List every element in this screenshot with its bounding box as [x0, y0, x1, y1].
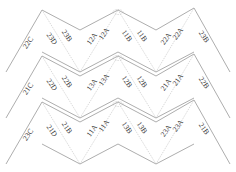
segment-label: 22B: [60, 74, 75, 89]
segment-label: 23A: [159, 122, 174, 138]
segment-label: 12B: [135, 74, 150, 89]
segment-label: 21B: [60, 120, 75, 135]
zigzag-strip-2: 21C22D22B13A13A12B12B21A21A22B: [6, 54, 230, 118]
segment-label: 23B: [197, 29, 212, 44]
zigzag-strip-1: 22C23D23B12A12A11B11B22A22A23B: [6, 8, 230, 72]
strip-labels: 21C22D22B13A13A12B12B21A21A22B: [21, 71, 212, 96]
segment-label: 13B: [135, 120, 150, 135]
strip-outline: [6, 100, 230, 164]
segment-label: 21B: [197, 121, 212, 136]
strip-labels: 22C23D23B12A12A11B11B22A22A23B: [21, 25, 212, 50]
segment-label: 21C: [21, 81, 36, 96]
segment-label: 22A: [171, 25, 186, 41]
strip-inner-edge: [42, 144, 194, 164]
strip-outline: [6, 54, 230, 118]
segment-label: 12B: [120, 74, 135, 89]
segment-label: 11B: [120, 28, 134, 43]
zigzag-strip-3: 23C21D21B11A11A13B13B23A23A21B: [6, 100, 230, 164]
segment-label: 12A: [97, 25, 112, 41]
segment-label: 13A: [97, 71, 112, 87]
segment-label: 13B: [120, 120, 135, 135]
segment-label: 22D: [45, 77, 60, 93]
segment-label: 22C: [21, 35, 36, 50]
zigzag-diagram: 22C23D23B12A12A11B11B22A22A23B 21C22D22B…: [0, 0, 236, 172]
diagram-canvas: 22C23D23B12A12A11B11B22A22A23B 21C22D22B…: [0, 0, 236, 172]
segment-label: 23C: [21, 127, 36, 142]
segment-label: 22A: [159, 30, 174, 46]
strip-inner-edge: [42, 98, 194, 118]
segment-label: 21A: [171, 71, 186, 87]
segment-label: 21A: [159, 76, 174, 92]
strip-inner-edge: [42, 52, 194, 72]
segment-label: 23B: [60, 28, 75, 43]
strip-labels: 23C21D21B11A11A13B13B23A23A21B: [21, 117, 212, 142]
segment-label: 22B: [197, 75, 212, 90]
segment-label: 23D: [45, 31, 60, 47]
segment-label: 11A: [97, 117, 112, 133]
segment-label: 21D: [45, 123, 60, 139]
strip-outline: [6, 8, 230, 72]
segment-label: 23A: [171, 117, 186, 133]
